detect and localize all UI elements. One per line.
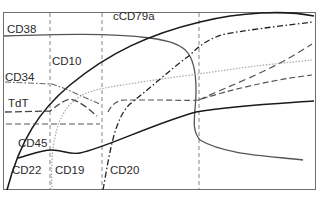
label-cd10: CD10 <box>52 56 81 68</box>
label-cd19: CD19 <box>55 165 84 177</box>
cd22-curve <box>6 75 312 124</box>
label-ccd79a: cCD79a <box>113 11 155 23</box>
cd45-curve <box>18 101 314 158</box>
label-cd22: CD22 <box>12 165 41 177</box>
label-cd38: CD38 <box>7 24 36 36</box>
label-cd20: CD20 <box>110 165 139 177</box>
cd38-curve <box>4 34 303 160</box>
label-cd45: CD45 <box>18 138 47 150</box>
label-tdt: TdT <box>8 98 28 110</box>
cd19-curve <box>52 60 312 190</box>
label-cd34: CD34 <box>5 72 34 84</box>
marker-expression-diagram <box>0 0 319 197</box>
